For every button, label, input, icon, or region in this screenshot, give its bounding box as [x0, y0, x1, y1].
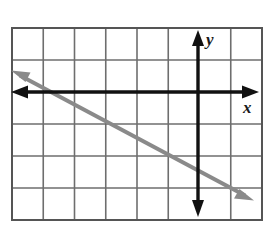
y-axis-label: y: [206, 31, 214, 48]
x-axis-label: x: [243, 99, 252, 116]
coordinate-graph-figure: y x: [0, 0, 268, 241]
graph-canvas: [0, 0, 268, 241]
